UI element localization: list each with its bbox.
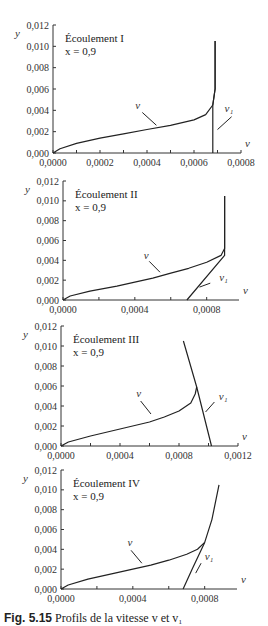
annotation-leader bbox=[131, 550, 142, 563]
x-tick-label: 0,0004 bbox=[121, 304, 149, 315]
chart-title: Écoulement I bbox=[65, 32, 124, 44]
x-tick-label: 0,0004 bbox=[133, 157, 161, 168]
chart-subtitle: x = 0,9 bbox=[75, 201, 106, 213]
chart-title: Écoulement IV bbox=[73, 477, 140, 489]
y-tick-label: 0,004 bbox=[27, 105, 50, 116]
series-v-label: v bbox=[127, 536, 132, 548]
chart-3: 0,0000,0020,0040,0060,0080,0100,0120,000… bbox=[22, 321, 252, 462]
y-axis-label: y bbox=[22, 328, 28, 340]
x-tick-label: 0,0000 bbox=[47, 450, 75, 461]
y-tick-label: 0,002 bbox=[27, 126, 50, 137]
y-tick-label: 0,008 bbox=[37, 215, 60, 226]
series-v1-label: v₁ bbox=[219, 271, 228, 283]
x-axis-label: v bbox=[242, 430, 247, 442]
y-tick-label: 0,008 bbox=[35, 361, 58, 372]
y-tick-label: 0,004 bbox=[37, 255, 60, 266]
y-tick-label: 0,008 bbox=[27, 62, 50, 73]
y-tick-label: 0,008 bbox=[35, 504, 58, 515]
y-tick-label: 0,006 bbox=[35, 381, 58, 392]
x-tick-label: 0,0000 bbox=[47, 593, 75, 604]
x-tick-label: 0,0012 bbox=[224, 450, 252, 461]
annotation-leader bbox=[206, 402, 215, 412]
series-v1-label: v₁ bbox=[219, 390, 228, 402]
y-tick-label: 0,002 bbox=[35, 564, 58, 575]
series-v-label: v bbox=[135, 99, 140, 111]
chart-title: Écoulement III bbox=[73, 333, 140, 345]
x-tick-label: 0,0006 bbox=[180, 157, 208, 168]
x-axis-label: v bbox=[243, 284, 248, 296]
figure-caption-text: Profils de la vitesse v et v₁ bbox=[55, 611, 183, 625]
x-axis-label: v bbox=[241, 573, 246, 585]
y-tick-label: 0,012 bbox=[27, 20, 50, 31]
series-v-line bbox=[53, 41, 215, 153]
series-v-line bbox=[61, 387, 197, 446]
y-tick-label: 0,002 bbox=[37, 275, 60, 286]
y-tick-label: 0,010 bbox=[35, 341, 58, 352]
figure-caption: Fig. 5.15 Profils de la vitesse v et v₁ bbox=[4, 611, 183, 626]
annotation-leader bbox=[142, 112, 156, 125]
y-axis-label: y bbox=[22, 472, 28, 484]
y-tick-label: 0,006 bbox=[37, 235, 60, 246]
y-tick-label: 0,004 bbox=[35, 401, 58, 412]
chart-1: 0,0000,0020,0040,0060,0080,0100,0120,000… bbox=[14, 20, 255, 169]
y-tick-label: 0,010 bbox=[27, 41, 50, 52]
y-tick-label: 0,010 bbox=[37, 195, 60, 206]
series-v1-line bbox=[183, 485, 219, 589]
figure-caption-label: Fig. 5.15 bbox=[4, 611, 52, 625]
x-tick-label: 0,0008 bbox=[193, 304, 221, 315]
annotation-leader bbox=[141, 401, 151, 414]
y-tick-label: 0,004 bbox=[35, 544, 58, 555]
annotation-leader bbox=[149, 261, 160, 272]
y-axis-label: y bbox=[14, 27, 20, 39]
y-tick-label: 0,010 bbox=[35, 484, 58, 495]
y-tick-label: 0,012 bbox=[35, 321, 58, 332]
x-tick-label: 0,0008 bbox=[165, 450, 193, 461]
x-tick-label: 0,0000 bbox=[39, 157, 67, 168]
series-v-label: v bbox=[144, 249, 149, 261]
series-v-label: v bbox=[136, 387, 141, 399]
y-tick-label: 0,006 bbox=[35, 524, 58, 535]
chart-subtitle: x = 0,9 bbox=[73, 346, 104, 358]
y-tick-label: 0,006 bbox=[27, 84, 50, 95]
x-tick-label: 0,0004 bbox=[106, 450, 134, 461]
series-v1-label: v₁ bbox=[225, 102, 234, 114]
series-v-line bbox=[61, 542, 205, 589]
chart-subtitle: x = 0,9 bbox=[65, 45, 96, 57]
y-axis-label: y bbox=[24, 183, 30, 195]
chart-4: 0,0000,0020,0040,0060,0080,0100,0120,000… bbox=[22, 465, 246, 605]
x-tick-label: 0,0000 bbox=[49, 304, 77, 315]
x-tick-label: 0,0004 bbox=[119, 593, 147, 604]
x-tick-label: 0,0008 bbox=[227, 157, 255, 168]
chart-2: 0,0000,0020,0040,0060,0080,0100,0120,000… bbox=[24, 176, 248, 316]
series-v1-line bbox=[213, 41, 215, 153]
y-tick-label: 0,012 bbox=[37, 176, 60, 187]
x-tick-label: 0,0008 bbox=[191, 593, 219, 604]
chart-title: Écoulement II bbox=[75, 188, 138, 200]
annotation-leader bbox=[196, 563, 201, 573]
y-tick-label: 0,012 bbox=[35, 465, 58, 476]
chart-subtitle: x = 0,9 bbox=[73, 490, 104, 502]
series-v1-label: v₁ bbox=[205, 550, 214, 562]
series-v1-line bbox=[183, 341, 211, 446]
y-tick-label: 0,002 bbox=[35, 421, 58, 432]
x-tick-label: 0,0002 bbox=[86, 157, 114, 168]
annotation-leader bbox=[218, 117, 232, 130]
x-axis-label: v bbox=[245, 137, 250, 149]
